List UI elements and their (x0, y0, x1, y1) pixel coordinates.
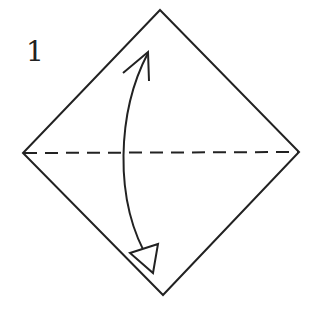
arrowhead-up-icon (123, 52, 149, 81)
diagram-svg (0, 0, 321, 318)
arrowhead-down-hollow-icon (130, 244, 158, 273)
origami-step-diagram: 1 (0, 0, 321, 318)
valley-fold-line (24, 152, 298, 153)
fold-arrow-curve (123, 53, 150, 262)
